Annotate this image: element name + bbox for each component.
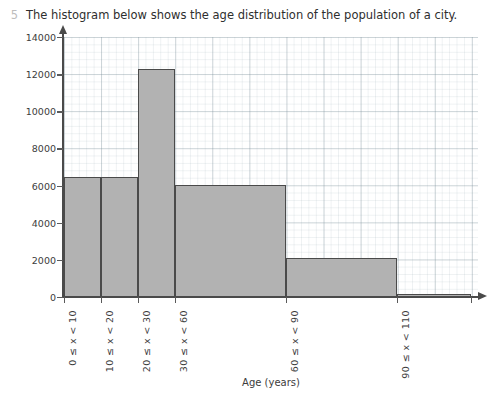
question-number: 5 bbox=[0, 8, 18, 22]
histogram-bar bbox=[101, 177, 138, 297]
x-axis-tick bbox=[101, 297, 102, 303]
x-axis-tick bbox=[64, 297, 65, 303]
y-axis-tick bbox=[57, 74, 63, 75]
x-axis-line bbox=[62, 296, 480, 298]
y-axis-tick-label: 14000 bbox=[26, 32, 56, 43]
x-axis-arrow-icon bbox=[478, 292, 487, 300]
y-axis-tick-label: 12000 bbox=[26, 69, 56, 80]
y-axis-tick-label: 2000 bbox=[32, 254, 56, 265]
x-axis-tick-label: 10 ≤ x < 20 bbox=[104, 310, 115, 372]
x-axis-tick-label: 90 ≤ x < 110 bbox=[400, 310, 411, 379]
x-axis-tick bbox=[175, 297, 176, 303]
y-axis-tick bbox=[57, 260, 63, 261]
y-axis-tick bbox=[57, 37, 63, 38]
question-text: The histogram below shows the age distri… bbox=[26, 8, 457, 22]
x-axis-tick-label: 20 ≤ x < 30 bbox=[141, 310, 152, 372]
bars-layer bbox=[64, 37, 478, 297]
question-header: 5 The histogram below shows the age dist… bbox=[0, 4, 493, 26]
y-axis-title: Frequency density bbox=[0, 136, 83, 228]
y-axis-tick bbox=[57, 111, 63, 112]
x-axis-tick bbox=[397, 297, 398, 303]
y-axis-arrow-icon bbox=[59, 25, 67, 34]
x-axis-tick bbox=[286, 297, 287, 303]
histogram-bar bbox=[138, 69, 175, 297]
y-axis-tick-label: 10000 bbox=[26, 106, 56, 117]
y-axis-tick-label: 0 bbox=[50, 292, 56, 303]
histogram-bar bbox=[286, 258, 397, 297]
x-axis-tick-label: 0 ≤ x < 10 bbox=[67, 310, 78, 366]
histogram-bar bbox=[175, 185, 286, 297]
histogram-figure: 02000400060008000100001200014000 0 ≤ x <… bbox=[0, 26, 493, 399]
x-axis-title: Age (years) bbox=[64, 377, 478, 388]
x-axis-tick-label: 30 ≤ x < 60 bbox=[178, 310, 189, 372]
x-axis-tick-label: 60 ≤ x < 90 bbox=[289, 310, 300, 372]
x-axis-tick bbox=[471, 297, 472, 303]
x-axis-tick bbox=[138, 297, 139, 303]
y-axis-tick bbox=[57, 297, 63, 298]
